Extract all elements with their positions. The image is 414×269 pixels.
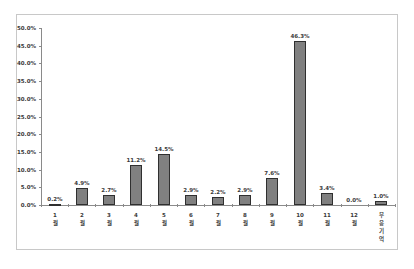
x-tick-mark <box>68 204 69 207</box>
x-category-label: 10 <box>290 211 310 219</box>
bar-chart: 0.0%5.0%10.0%15.0%20.0%25.0%30.0%35.0%40… <box>0 0 414 269</box>
x-category-label: 월 <box>262 219 282 227</box>
bar-value-label: 4.9% <box>67 180 97 186</box>
x-tick-mark <box>204 204 205 207</box>
x-category-label: 월 <box>181 219 201 227</box>
bar <box>212 197 224 205</box>
y-tick-label: 40.0% <box>10 60 36 66</box>
x-category-label: 12 <box>344 211 364 219</box>
bar <box>103 195 115 205</box>
bar-value-label: 2.9% <box>176 187 206 193</box>
x-category-label: 8 <box>235 211 255 219</box>
x-category-label: 월 <box>317 219 337 227</box>
bar-value-label: 0.0% <box>339 197 369 203</box>
x-category-label: 3 <box>99 211 119 219</box>
x-category-label: 월 <box>208 219 228 227</box>
x-category-label: 월 <box>154 219 174 227</box>
bar-value-label: 7.6% <box>257 170 287 176</box>
bar-value-label: 2.9% <box>230 187 260 193</box>
y-tick-label: 20.0% <box>10 131 36 137</box>
bar <box>158 154 170 205</box>
x-category-label: 9 <box>262 211 282 219</box>
y-tick-label: 10.0% <box>10 167 36 173</box>
y-tick-mark <box>39 134 42 135</box>
x-category-label: 월 <box>72 219 92 227</box>
bar-value-label: 3.4% <box>312 185 342 191</box>
x-category-label: 월 <box>45 219 65 227</box>
bar <box>239 195 251 205</box>
y-tick-mark <box>39 152 42 153</box>
x-category-label: 11 <box>317 211 337 219</box>
y-tick-mark <box>39 81 42 82</box>
bar <box>375 201 387 205</box>
x-tick-mark <box>395 204 396 207</box>
x-tick-mark <box>368 204 369 207</box>
x-category-label: 월 <box>290 219 310 227</box>
x-tick-mark <box>177 204 178 207</box>
x-category-label: 1 <box>45 211 65 219</box>
y-tick-mark <box>39 99 42 100</box>
bar <box>266 178 278 205</box>
y-tick-label: 5.0% <box>10 184 36 190</box>
bar-value-label: 46.3% <box>285 33 315 39</box>
y-tick-mark <box>39 117 42 118</box>
x-category-label: 무 <box>371 211 391 219</box>
y-tick-mark <box>39 28 42 29</box>
y-tick-label: 15.0% <box>10 149 36 155</box>
bar-value-label: 11.2% <box>121 157 151 163</box>
x-category-label: 응 <box>371 219 391 227</box>
y-tick-label: 50.0% <box>10 25 36 31</box>
x-category-label: 2 <box>72 211 92 219</box>
x-tick-mark <box>341 204 342 207</box>
bar-value-label: 2.7% <box>94 187 124 193</box>
bar <box>130 165 142 205</box>
x-category-label: 월 <box>99 219 119 227</box>
bar-value-label: 1.0% <box>366 193 396 199</box>
bar <box>321 193 333 205</box>
x-category-label: 억 <box>371 235 391 243</box>
y-tick-mark <box>39 63 42 64</box>
bar-value-label: 0.2% <box>40 196 70 202</box>
x-tick-mark <box>41 204 42 207</box>
x-tick-mark <box>313 204 314 207</box>
x-tick-mark <box>150 204 151 207</box>
x-category-label: 기 <box>371 227 391 235</box>
bar-value-label: 14.5% <box>149 146 179 152</box>
bar <box>294 41 306 205</box>
bar <box>76 188 88 205</box>
bar <box>185 195 197 205</box>
y-tick-label: 35.0% <box>10 78 36 84</box>
x-tick-mark <box>232 204 233 207</box>
y-tick-mark <box>39 170 42 171</box>
y-tick-label: 0.0% <box>10 202 36 208</box>
x-tick-mark <box>259 204 260 207</box>
x-category-label: 5 <box>154 211 174 219</box>
y-tick-label: 45.0% <box>10 43 36 49</box>
y-tick-label: 25.0% <box>10 114 36 120</box>
x-category-label: 6 <box>181 211 201 219</box>
y-tick-mark <box>39 187 42 188</box>
x-tick-mark <box>286 204 287 207</box>
x-category-label: 월 <box>235 219 255 227</box>
x-category-label: 월 <box>344 219 364 227</box>
bar <box>49 204 61 206</box>
bar-value-label: 2.2% <box>203 189 233 195</box>
x-category-label: 월 <box>126 219 146 227</box>
y-tick-label: 30.0% <box>10 96 36 102</box>
x-tick-mark <box>123 204 124 207</box>
x-category-label: 7 <box>208 211 228 219</box>
x-category-label: 4 <box>126 211 146 219</box>
x-tick-mark <box>95 204 96 207</box>
y-tick-mark <box>39 46 42 47</box>
